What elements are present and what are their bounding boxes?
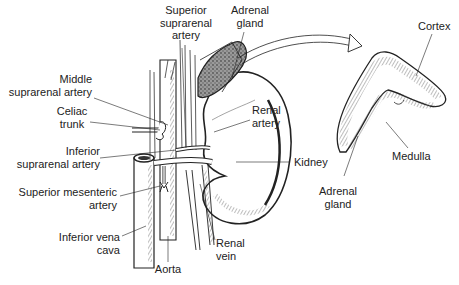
label-medulla: Medulla xyxy=(392,150,431,163)
label-cortex: Cortex xyxy=(418,20,450,33)
label-line: artery xyxy=(0,199,117,212)
label-line: Celiac xyxy=(54,105,90,118)
label-line: Renal xyxy=(252,104,302,117)
label-line: artery xyxy=(150,29,222,42)
label-superior-mesenteric-artery: Superior mesenteric artery xyxy=(0,186,117,211)
label-line: Renal xyxy=(216,237,256,250)
label-line: cava xyxy=(0,244,120,257)
label-celiac-trunk: Celiac trunk xyxy=(54,105,90,130)
label-line: Adrenal xyxy=(314,185,362,198)
label-middle-suprarenal-artery: Middle suprarenal artery xyxy=(0,73,92,98)
diagram-canvas: Superior suprarenal artery Adrenal gland… xyxy=(0,0,459,285)
label-aorta: Aorta xyxy=(150,263,186,276)
adrenal-cross-section xyxy=(337,52,445,152)
label-renal-artery: Renal artery xyxy=(252,104,302,129)
label-line: Inferior xyxy=(0,145,100,158)
label-superior-suprarenal-artery: Superior suprarenal artery xyxy=(150,4,222,42)
label-inferior-vena-cava: Inferior vena cava xyxy=(0,231,120,256)
label-renal-vein: Renal vein xyxy=(216,237,256,262)
label-line: suprarenal artery xyxy=(0,158,100,171)
label-line: Superior xyxy=(150,4,222,17)
label-adrenal-gland: Adrenal gland xyxy=(224,4,276,29)
label-line: trunk xyxy=(54,118,90,131)
label-line: Adrenal xyxy=(224,4,276,17)
label-line: artery xyxy=(252,117,302,130)
label-line: Middle xyxy=(0,73,92,86)
kidney-shape xyxy=(203,72,291,224)
label-line: Inferior vena xyxy=(0,231,120,244)
label-line: vein xyxy=(216,250,256,263)
label-inferior-suprarenal-artery: Inferior suprarenal artery xyxy=(0,145,100,170)
label-line: suprarenal artery xyxy=(0,86,92,99)
label-kidney: Kidney xyxy=(294,156,328,169)
label-adrenal-gland-section: Adrenal gland xyxy=(314,185,362,210)
label-line: suprarenal xyxy=(150,17,222,30)
label-line: Superior mesenteric xyxy=(0,186,117,199)
label-line: gland xyxy=(314,198,362,211)
label-line: gland xyxy=(224,17,276,30)
